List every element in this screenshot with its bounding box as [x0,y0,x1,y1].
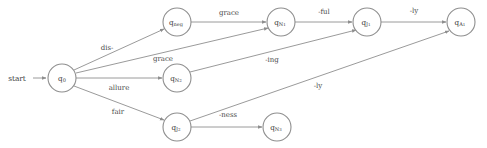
nodes-layer: q0 qneg qN2 qJ2 qN1 qN3 [48,8,475,141]
node-qN1[interactable]: qN1 [267,8,295,36]
automaton-canvas: q0 qneg qN2 qJ2 qN1 qN3 [0,0,487,148]
start-label: start [8,74,26,83]
node-qJ2[interactable]: qJ2 [163,113,191,141]
node-q0[interactable]: q0 [48,64,76,92]
edge-label-dis: dis- [101,44,114,52]
edge-label-ing: -ing [265,56,279,64]
edge-label-fair: fair [112,108,125,116]
node-qN3[interactable]: qN3 [263,113,291,141]
edge-qN2-to-qJ1 [190,30,356,72]
edge-label-ly-top: -ly [410,7,419,15]
edge-q0-to-qneg [74,29,164,70]
edge-label-grace-q0: grace [153,55,173,63]
node-qN2[interactable]: qN2 [163,64,191,92]
node-qJ1[interactable]: qJ1 [353,8,381,36]
node-qA1[interactable]: qA1 [447,8,475,36]
edge-label-ful: -ful [318,8,330,16]
edge-label-allure: allure [109,84,130,92]
node-qneg[interactable]: qneg [163,8,191,36]
automaton-diagram: q0 qneg qN2 qJ2 qN1 qN3 [0,0,487,148]
edge-label-grace-qneg: grace [219,9,239,17]
edges-layer [33,22,449,127]
edge-label-ness: -ness [219,111,238,119]
edge-label-ly-bottom: -ly [314,82,323,90]
edge-qJ2-to-qA1 [190,31,449,121]
